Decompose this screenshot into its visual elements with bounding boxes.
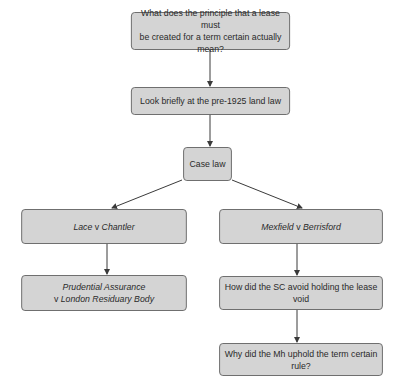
node-pre-1925-land-law: Look briefly at the pre-1925 land law: [131, 87, 290, 115]
node-text-line: What does the principle that a lease mus…: [136, 7, 286, 31]
case-party: London Residuary Body: [61, 293, 154, 304]
node-prudential-v-london-residuary: Prudential Assurance v London Residuary …: [21, 275, 187, 311]
case-party: Berrisford: [303, 221, 341, 232]
node-text-line: be created for a term certain actually m…: [136, 31, 286, 55]
edge-n3-n4: [112, 180, 182, 208]
node-term-certain-question: What does the principle that a lease mus…: [131, 12, 290, 50]
edge-n3-n5: [232, 180, 302, 208]
case-versus: v: [294, 221, 303, 232]
case-versus: v: [54, 293, 61, 304]
edges-layer: [0, 0, 404, 386]
case-party: Lace: [73, 221, 92, 232]
node-text: Look briefly at the pre-1925 land law: [140, 95, 281, 107]
node-case-law: Case law: [183, 147, 232, 181]
case-party: Mexfield: [261, 221, 294, 232]
node-text: Why did the Mh uphold the term certain r…: [224, 348, 379, 372]
node-sc-avoid-void: How did the SC avoid holding the lease v…: [219, 276, 383, 310]
case-party: Chantler: [102, 221, 135, 232]
case-party: Prudential Assurance: [54, 281, 154, 293]
node-lace-v-chantler: Lace v Chantler: [21, 209, 187, 244]
node-text: How did the SC avoid holding the lease v…: [224, 281, 379, 305]
node-mexfield-v-berrisford: Mexfield v Berrisford: [219, 209, 383, 244]
node-text: Case law: [190, 158, 226, 170]
node-mh-uphold-rule: Why did the Mh uphold the term certain r…: [219, 343, 383, 376]
case-versus: v: [92, 221, 101, 232]
